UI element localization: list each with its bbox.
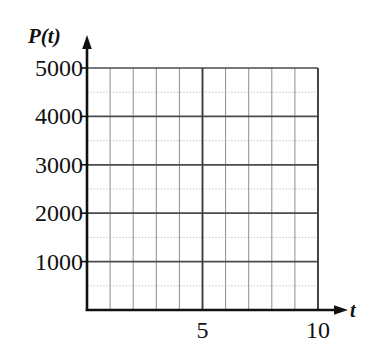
y-tick-label-1000: 1000 [35,250,83,274]
coordinate-grid-figure: P(t) t 5000 4000 3000 2000 1000 5 10 [0,0,382,361]
y-tick-label-5000: 5000 [35,56,83,80]
x-tick-label-10: 10 [306,318,330,342]
x-axis [86,305,348,315]
y-axis-title: P(t) [28,26,61,47]
y-axis [82,35,92,311]
y-tick-label-2000: 2000 [35,201,83,225]
x-axis-title: t [350,300,356,320]
y-tick-label-4000: 4000 [35,104,83,128]
y-tick-label-3000: 3000 [35,153,83,177]
x-tick-label-5: 5 [197,318,209,342]
